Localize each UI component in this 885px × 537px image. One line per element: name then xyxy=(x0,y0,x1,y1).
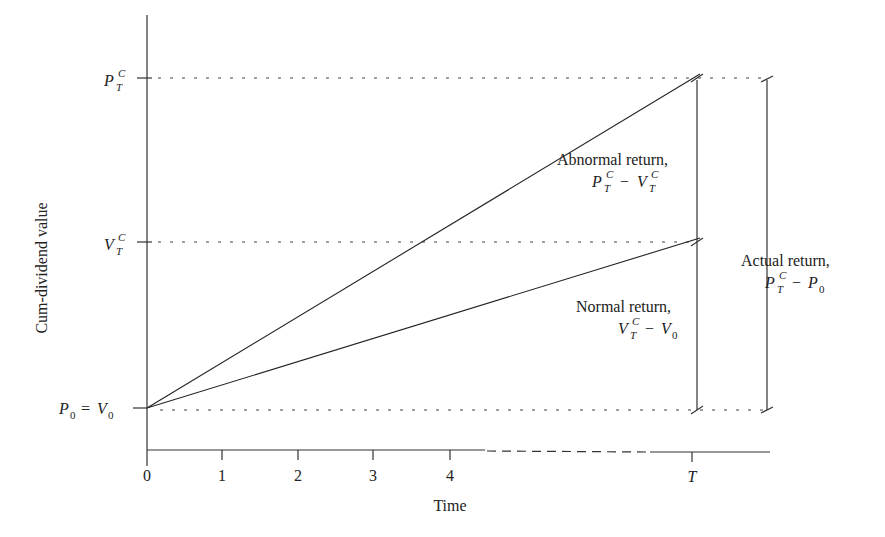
svg-text:P: P xyxy=(807,274,818,291)
y-label-pt: P C T xyxy=(103,67,126,93)
svg-text:2: 2 xyxy=(294,467,302,484)
svg-text:0: 0 xyxy=(819,283,825,295)
svg-text:Normal return,: Normal return, xyxy=(576,298,671,315)
svg-text:T: T xyxy=(688,468,698,485)
svg-text:−: − xyxy=(792,274,801,291)
svg-text:C: C xyxy=(118,231,126,243)
svg-text:P: P xyxy=(103,72,114,89)
svg-text:0: 0 xyxy=(108,409,114,421)
svg-text:C: C xyxy=(632,315,640,327)
svg-text:T: T xyxy=(116,245,123,257)
normal-return-annotation: Normal return, V C T − V 0 xyxy=(576,298,678,341)
svg-text:C: C xyxy=(779,269,787,281)
return-decomposition-diagram: 0 1 2 3 4 T Time Cum-dividend value P C … xyxy=(0,0,885,537)
svg-text:V: V xyxy=(104,236,116,253)
x-ticks xyxy=(222,450,692,462)
svg-text:C: C xyxy=(118,67,126,79)
x-axis-label: Time xyxy=(433,497,466,514)
svg-text:P: P xyxy=(58,400,69,417)
svg-text:0: 0 xyxy=(672,329,678,341)
svg-text:Abnormal return,: Abnormal return, xyxy=(557,151,668,168)
svg-text:T: T xyxy=(649,182,656,194)
y-label-p0-v0: P 0 = V 0 xyxy=(58,400,114,421)
y-label-vt: V C T xyxy=(104,231,126,257)
svg-text:C: C xyxy=(606,168,614,180)
actual-price-path xyxy=(147,74,700,408)
svg-text:=: = xyxy=(81,400,90,417)
svg-text:T: T xyxy=(604,182,611,194)
y-axis-label: Cum-dividend value xyxy=(33,202,50,333)
svg-text:T: T xyxy=(630,329,637,341)
svg-text:T: T xyxy=(777,283,784,295)
svg-text:P: P xyxy=(591,173,602,190)
abnormal-return-annotation: Abnormal return, P C T − V C T xyxy=(557,151,668,194)
svg-text:−: − xyxy=(620,173,629,190)
svg-text:P: P xyxy=(764,274,775,291)
svg-text:0: 0 xyxy=(143,467,151,484)
svg-text:V: V xyxy=(637,173,649,190)
svg-text:3: 3 xyxy=(369,467,377,484)
actual-return-annotation: Actual return, P C T − P 0 xyxy=(741,252,830,295)
svg-text:Actual return,: Actual return, xyxy=(741,252,830,269)
svg-text:C: C xyxy=(651,168,659,180)
x-tick-labels: 0 1 2 3 4 T xyxy=(143,467,698,485)
svg-text:V: V xyxy=(618,320,630,337)
svg-text:−: − xyxy=(645,320,654,337)
svg-text:T: T xyxy=(116,81,123,93)
svg-text:0: 0 xyxy=(70,409,76,421)
svg-text:4: 4 xyxy=(446,467,454,484)
svg-text:1: 1 xyxy=(218,467,226,484)
x-axis-break xyxy=(487,451,648,452)
